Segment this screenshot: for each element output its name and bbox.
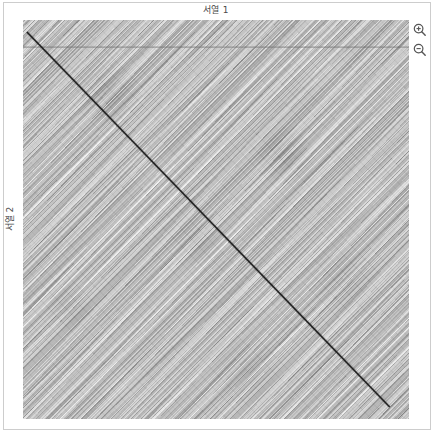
dotplot-feature-overlay (23, 20, 409, 419)
main-diagonal-halo (27, 32, 390, 407)
magnifier-minus-icon (412, 42, 428, 58)
y-axis-title: 서열 2 (4, 179, 16, 259)
dotplot-window: 서열 1 서열 2 (0, 0, 442, 434)
dotplot-canvas[interactable] (23, 20, 409, 419)
magnifier-plus-icon (412, 22, 428, 38)
x-axis-title: 서열 1 (24, 4, 408, 17)
zoom-in-button[interactable] (412, 22, 428, 38)
zoom-out-button[interactable] (412, 42, 428, 58)
y-axis-title-container: 서열 2 (2, 180, 18, 260)
